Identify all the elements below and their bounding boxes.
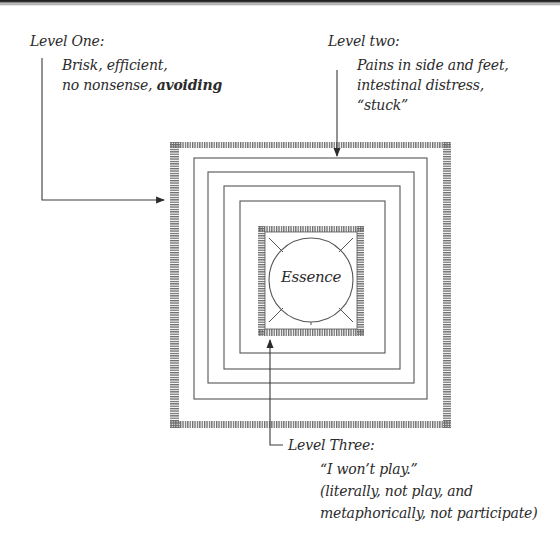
level-one-title: Level One: (30, 33, 104, 50)
level-three-line-3: metaphorically, not participate) (320, 505, 537, 522)
level-three-title: Level Three: (288, 437, 375, 454)
level-two-line-1: Pains in side and feet, (357, 57, 509, 74)
level-one-line-1: Brisk, efficient, (62, 57, 167, 74)
level-two-emphasis: “stuck” (357, 97, 408, 114)
level-two-title: Level two: (328, 33, 399, 50)
level-one-line-2-text: no nonsense, (62, 77, 152, 93)
level-three-connector-arrow (270, 340, 283, 445)
level-three-line-1: “I won’t play.” (320, 461, 418, 478)
level-three-line-2: (literally, not play, and (320, 483, 473, 500)
level-one-emphasis: avoiding (157, 77, 222, 93)
level-one-line-2: no nonsense, avoiding (62, 77, 222, 94)
essence-label: Essence (269, 268, 353, 286)
level-two-line-2: intestinal distress, (357, 77, 484, 94)
